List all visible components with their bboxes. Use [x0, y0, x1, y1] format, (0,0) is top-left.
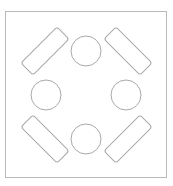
diagram-canvas — [0, 0, 173, 186]
shape-pattern-svg — [0, 0, 173, 186]
